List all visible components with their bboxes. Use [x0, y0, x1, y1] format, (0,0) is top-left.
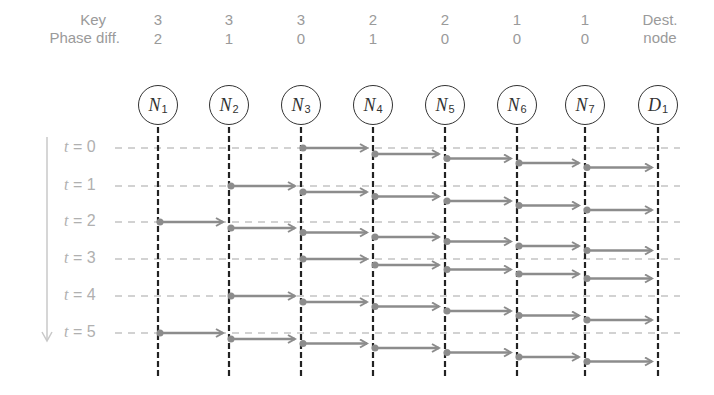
node-circle: N2	[209, 85, 249, 125]
node-subscript: 7	[588, 103, 594, 115]
node-name: D	[648, 95, 661, 116]
node-circle: N1	[138, 85, 178, 125]
node-circle: N5	[425, 85, 465, 125]
time-label: t = 1	[64, 177, 96, 193]
node-subscript: 5	[448, 103, 454, 115]
node-circle: N4	[353, 85, 393, 125]
node-subscript: 1	[662, 103, 668, 115]
node-name: N	[291, 95, 303, 116]
node-name: N	[219, 95, 231, 116]
time-label: t = 3	[64, 250, 96, 266]
node-circle: D1	[638, 85, 678, 125]
node-name: N	[148, 95, 160, 116]
node-subscript: 2	[232, 103, 238, 115]
node-subscript: 1	[161, 103, 167, 115]
node-name: N	[435, 95, 447, 116]
node-name: N	[575, 95, 587, 116]
node-circle: N3	[281, 85, 321, 125]
node-name: N	[363, 95, 375, 116]
time-label: t = 0	[64, 139, 96, 155]
node-circle: N6	[497, 85, 537, 125]
timing-diagram	[0, 0, 714, 395]
node-subscript: 4	[376, 103, 382, 115]
time-label: t = 4	[64, 287, 96, 303]
node-subscript: 6	[520, 103, 526, 115]
node-subscript: 3	[304, 103, 310, 115]
time-label: t = 2	[64, 213, 96, 229]
time-label: t = 5	[64, 324, 96, 340]
node-circle: N7	[565, 85, 605, 125]
node-name: N	[507, 95, 519, 116]
